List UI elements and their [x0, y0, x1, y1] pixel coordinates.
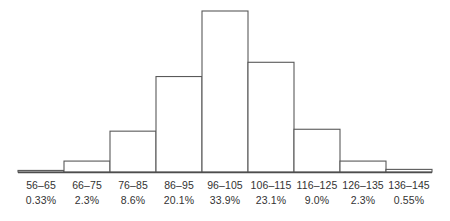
x-tick-range-label: 136–145: [388, 178, 430, 192]
histogram-bar: [294, 129, 340, 172]
x-axis-tick-labels: 56–650.33%66–752.3%76–858.6%86–9520.1%96…: [18, 178, 432, 220]
x-tick-group: 96–10533.9%: [202, 178, 248, 207]
histogram-bar: [386, 169, 432, 172]
x-tick-range-label: 86–95: [164, 178, 194, 192]
x-tick-percent-label: 2.3%: [351, 193, 375, 207]
x-tick-group: 76–858.6%: [110, 178, 156, 207]
x-tick-percent-label: 9.0%: [305, 193, 329, 207]
x-tick-percent-label: 8.6%: [121, 193, 145, 207]
x-tick-range-label: 66–75: [72, 178, 102, 192]
histogram-bar: [202, 11, 248, 172]
histogram-bar: [156, 77, 202, 172]
x-tick-range-label: 76–85: [118, 178, 148, 192]
x-tick-group: 126–1352.3%: [340, 178, 386, 207]
histogram-bar: [64, 161, 110, 172]
x-tick-range-label: 96–105: [207, 178, 243, 192]
x-tick-range-label: 116–125: [297, 178, 338, 192]
x-tick-percent-label: 33.9%: [210, 193, 240, 207]
plot-area: [0, 0, 450, 176]
x-tick-percent-label: 23.1%: [256, 193, 286, 207]
histogram-bar: [340, 161, 386, 172]
bar-series: [18, 11, 432, 172]
x-tick-percent-label: 2.3%: [75, 193, 99, 207]
histogram-figure: 56–650.33%66–752.3%76–858.6%86–9520.1%96…: [0, 0, 450, 221]
x-tick-group: 56–650.33%: [18, 178, 64, 207]
x-tick-range-label: 126–135: [342, 178, 384, 192]
x-tick-percent-label: 0.55%: [394, 193, 424, 207]
histogram-bar: [110, 131, 156, 172]
x-tick-group: 66–752.3%: [64, 178, 110, 207]
x-tick-group: 106–11523.1%: [248, 178, 294, 207]
x-tick-group: 116–1259.0%: [294, 178, 340, 207]
histogram-svg: [0, 0, 450, 176]
x-tick-range-label: 106–115: [251, 178, 292, 192]
x-tick-group: 136–1450.55%: [386, 178, 432, 207]
x-tick-percent-label: 0.33%: [26, 193, 56, 207]
x-tick-range-label: 56–65: [26, 178, 56, 192]
x-tick-group: 86–9520.1%: [156, 178, 202, 207]
histogram-bar: [248, 62, 294, 172]
histogram-bar: [18, 170, 64, 172]
x-tick-percent-label: 20.1%: [164, 193, 194, 207]
